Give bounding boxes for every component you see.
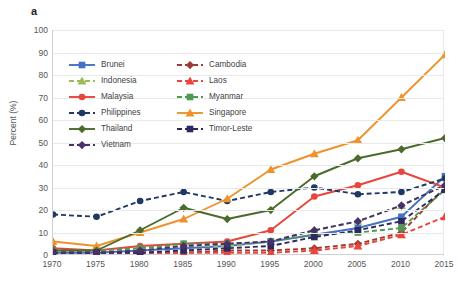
legend-label: Malaysia — [101, 93, 133, 101]
legend-label: Philippines — [101, 109, 141, 117]
gridline-90 — [53, 53, 444, 54]
legend-item-philippines[interactable]: Philippines — [68, 106, 176, 120]
legend-item-thailand[interactable]: Thailand — [68, 122, 176, 136]
legend-item-indonesia[interactable]: Indonesia — [68, 74, 176, 88]
legend-label: Laos — [209, 77, 227, 85]
legend-key-square-icon — [176, 91, 204, 103]
gridline-20 — [53, 210, 444, 211]
y-tick-90: 90 — [39, 48, 48, 57]
y-tick-70: 70 — [39, 93, 48, 102]
y-tick-80: 80 — [39, 71, 48, 80]
x-tick-1975: 1975 — [86, 259, 105, 269]
x-tick-1980: 1980 — [130, 259, 149, 269]
x-tick-1985: 1985 — [173, 259, 192, 269]
legend-item-cambodia[interactable]: Cambodia — [176, 58, 283, 72]
legend-key-square-icon — [176, 123, 204, 135]
y-tick-0: 0 — [43, 251, 48, 260]
legend-item-myanmar[interactable]: Myanmar — [176, 90, 283, 104]
panel-label: a — [31, 5, 37, 17]
y-tick-50: 50 — [39, 138, 48, 147]
legend-label: Thailand — [101, 125, 132, 133]
legend-label: Indonesia — [101, 77, 137, 85]
legend-label: Myanmar — [209, 93, 243, 101]
gridline-10 — [53, 233, 444, 234]
y-tick-10: 10 — [39, 228, 48, 237]
legend-key-circle-icon — [68, 91, 96, 103]
gridline-30 — [53, 188, 444, 189]
legend-key-diamond-icon — [68, 123, 96, 135]
chart-legend: BruneiCambodiaIndonesiaLaosMalaysiaMyanm… — [68, 58, 283, 152]
legend-label: Timor-Leste — [209, 125, 252, 133]
x-tick-2000: 2000 — [304, 259, 323, 269]
legend-spacer — [176, 138, 283, 152]
legend-label: Vietnam — [101, 141, 131, 149]
y-axis-tick-labels: 0102030405060708090100 — [22, 26, 48, 258]
legend-key-diamond-icon — [176, 59, 204, 71]
legend-key-square-icon — [68, 59, 96, 71]
gridline-40 — [53, 165, 444, 166]
x-tick-2005: 2005 — [347, 259, 366, 269]
legend-item-singapore[interactable]: Singapore — [176, 106, 283, 120]
legend-label: Brunei — [101, 61, 125, 69]
y-tick-100: 100 — [34, 26, 48, 35]
series-philippines — [53, 175, 445, 220]
x-tick-1970: 1970 — [43, 259, 62, 269]
legend-key-circle-icon — [68, 107, 96, 119]
legend-key-triangle-icon — [176, 75, 204, 87]
legend-item-timor-leste[interactable]: Timor-Leste — [176, 122, 283, 136]
legend-item-vietnam[interactable]: Vietnam — [68, 138, 176, 152]
legend-label: Singapore — [209, 109, 246, 117]
legend-item-laos[interactable]: Laos — [176, 74, 283, 88]
x-tick-2015: 2015 — [435, 259, 454, 269]
legend-label: Cambodia — [209, 61, 246, 69]
gridline-100 — [53, 30, 444, 31]
y-tick-40: 40 — [39, 161, 48, 170]
legend-key-diamond-icon — [68, 139, 96, 151]
x-tick-2010: 2010 — [391, 259, 410, 269]
legend-key-triangle-icon — [68, 75, 96, 87]
y-tick-20: 20 — [39, 206, 48, 215]
y-tick-60: 60 — [39, 116, 48, 125]
legend-item-malaysia[interactable]: Malaysia — [68, 90, 176, 104]
y-tick-30: 30 — [39, 183, 48, 192]
x-axis-tick-labels: 1970197519801985199019952000200520102015 — [52, 259, 444, 275]
x-tick-1990: 1990 — [217, 259, 236, 269]
x-tick-1995: 1995 — [260, 259, 279, 269]
legend-item-brunei[interactable]: Brunei — [68, 58, 176, 72]
y-axis-label: Percent (%) — [8, 88, 18, 158]
legend-key-triangle-icon — [176, 107, 204, 119]
